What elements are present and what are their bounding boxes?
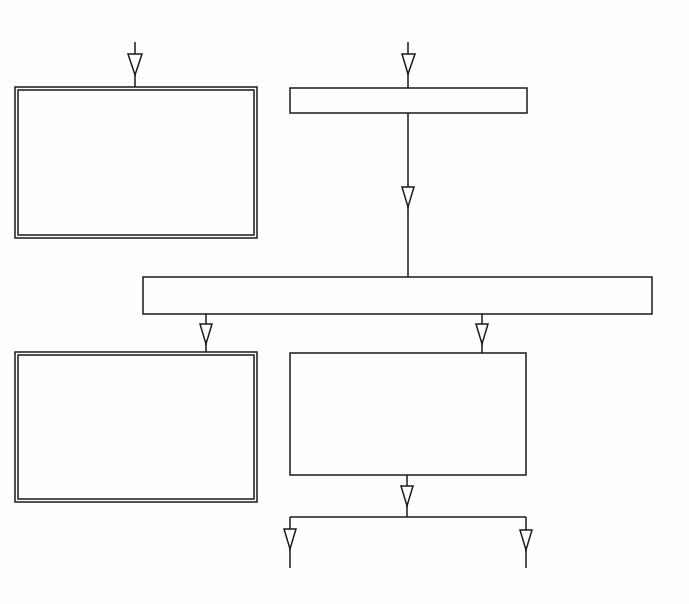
box-bottom-right: [290, 353, 526, 475]
arrow-branch-left-output: [284, 517, 296, 568]
arrow-into-top-left: [128, 42, 142, 87]
arrow-top-right-to-middle: [402, 113, 414, 277]
arrow-middle-to-bottom-right: [476, 314, 488, 353]
flowchart-canvas: [0, 0, 689, 604]
arrow-branch-right-output: [520, 517, 532, 568]
arrow-bottom-right-to-branch: [401, 475, 413, 517]
box-bottom-left: [15, 352, 257, 502]
arrow-middle-to-bottom-left: [200, 314, 212, 352]
box-top-right: [290, 88, 527, 113]
box-middle-wide: [143, 277, 652, 314]
arrow-into-top-right: [402, 42, 415, 88]
box-top-left: [15, 87, 257, 238]
